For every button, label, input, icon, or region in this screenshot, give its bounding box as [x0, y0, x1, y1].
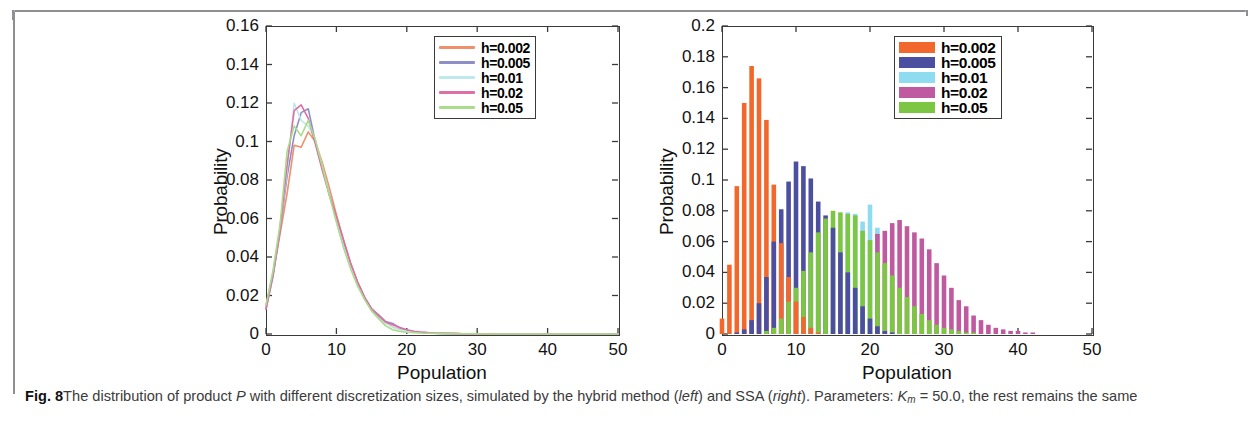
bar	[905, 297, 910, 334]
bar	[749, 66, 754, 334]
bar	[742, 329, 747, 334]
chart-panel-ssa: 00.020.040.060.080.10.120.140.160.180.20…	[640, 14, 1110, 366]
bar	[757, 78, 762, 334]
series-line-4	[266, 120, 618, 334]
legend-item-h=0.002[interactable]: h=0.002	[899, 40, 996, 55]
y-tick-label: 0	[250, 324, 259, 344]
bar	[816, 332, 821, 334]
y-tick-label: 0.02	[226, 286, 259, 306]
bar	[890, 332, 895, 334]
legend-item-h=0.01[interactable]: h=0.01	[899, 70, 996, 85]
legend-label: h=0.005	[941, 55, 996, 71]
y-tick-label: 0.02	[682, 293, 715, 313]
bar	[794, 302, 799, 334]
legend-label: h=0.01	[941, 70, 987, 86]
x-tick-label: 50	[1083, 340, 1102, 360]
legend-item-h=0.002[interactable]: h=0.002	[439, 40, 530, 55]
bar	[786, 302, 791, 334]
bar	[1031, 332, 1036, 334]
bar	[934, 263, 939, 334]
legend-swatch-h=0.05	[899, 102, 935, 113]
bar	[720, 319, 725, 334]
legend-swatch-h=0.01	[899, 72, 935, 83]
series-line-3	[266, 105, 618, 334]
bar	[764, 331, 769, 334]
bar	[764, 277, 769, 334]
y-tick-label: 0.16	[226, 16, 259, 36]
legend-label: h=0.05	[481, 101, 523, 115]
x-tick-label: 30	[468, 340, 487, 360]
bar	[823, 219, 828, 335]
bar	[809, 328, 814, 334]
legend-label: h=0.02	[941, 85, 987, 101]
bar	[735, 186, 740, 334]
y-tick-label: 0.04	[226, 247, 259, 267]
legend-item-h=0.02[interactable]: h=0.02	[899, 85, 996, 100]
x-tick-label: 20	[861, 340, 880, 360]
bar	[920, 314, 925, 334]
legend-label: h=0.002	[481, 41, 530, 55]
x-tick-label: 0	[717, 340, 726, 360]
y-axis-label: Probability	[656, 148, 678, 235]
bar	[831, 228, 836, 334]
bar	[875, 326, 880, 334]
bar	[979, 320, 984, 334]
bar	[897, 288, 902, 334]
bar	[964, 306, 969, 334]
figure-left-rule	[13, 12, 15, 394]
legend-swatch-h=0.005	[899, 57, 935, 68]
bar	[838, 252, 843, 334]
caption-text-3: ) and SSA (	[698, 388, 773, 404]
bar	[957, 300, 962, 334]
y-tick-label: 0.18	[682, 47, 715, 67]
bar	[927, 320, 932, 334]
y-tick-label: 0.08	[682, 201, 715, 221]
bar	[749, 320, 754, 334]
bar	[735, 332, 740, 334]
figure-label: Fig. 8	[25, 388, 63, 404]
figure-root: 00.020.040.060.080.10.120.140.1601020304…	[0, 0, 1257, 445]
caption-text-1: The distribution of product	[63, 388, 236, 404]
legend-swatch-h=0.02	[439, 91, 475, 93]
y-tick-label: 0.14	[682, 108, 715, 128]
x-tick-label: 50	[609, 340, 628, 360]
bar	[971, 316, 976, 334]
legend-item-h=0.05[interactable]: h=0.05	[899, 100, 996, 115]
bar	[890, 275, 895, 334]
y-tick-label: 0	[706, 324, 715, 344]
x-tick-label: 10	[327, 340, 346, 360]
x-tick-label: 10	[787, 340, 806, 360]
chart-panel-hybrid-method: 00.020.040.060.080.10.120.140.1601020304…	[196, 14, 634, 366]
x-tick-label: 30	[935, 340, 954, 360]
x-tick-label: 20	[397, 340, 416, 360]
bar	[1016, 331, 1021, 334]
series-line-0	[266, 132, 618, 334]
bar	[727, 265, 732, 334]
bar	[860, 306, 865, 334]
bar	[949, 329, 954, 334]
bar	[942, 275, 947, 334]
bar	[846, 272, 851, 334]
y-tick-label: 0.14	[226, 55, 259, 75]
legend-item-h=0.01[interactable]: h=0.01	[439, 70, 530, 85]
bar	[772, 242, 777, 334]
y-tick-label: 0.1	[235, 132, 259, 152]
x-tick-label: 40	[538, 340, 557, 360]
bar	[971, 332, 976, 334]
bar	[986, 325, 991, 334]
bar	[875, 252, 880, 334]
bar	[853, 288, 858, 334]
figure-top-rule	[14, 10, 1246, 12]
caption-km-subscript: m	[907, 394, 915, 405]
bar	[957, 331, 962, 334]
legend-item-h=0.005[interactable]: h=0.005	[899, 55, 996, 70]
legend-label: h=0.05	[941, 100, 987, 116]
legend-item-h=0.05[interactable]: h=0.05	[439, 100, 530, 115]
bar	[816, 232, 821, 334]
caption-italic-right: right	[773, 388, 801, 404]
bar	[964, 332, 969, 334]
legend-item-h=0.02[interactable]: h=0.02	[439, 85, 530, 100]
legend-swatch-h=0.05	[439, 106, 475, 108]
legend-label: h=0.01	[481, 71, 523, 85]
legend-item-h=0.005[interactable]: h=0.005	[439, 55, 530, 70]
